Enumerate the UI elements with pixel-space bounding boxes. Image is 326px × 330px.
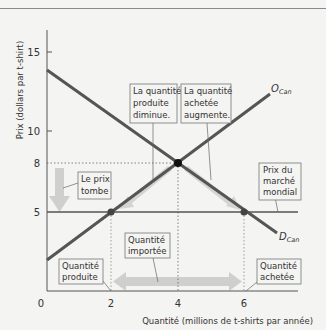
callout-price-falls: Le prix tombe xyxy=(78,172,111,199)
y-axis-title: Prix (dollars par t-shirt) xyxy=(15,41,25,140)
callout-produced: Quantité produite xyxy=(59,259,103,284)
svg-text:tombe: tombe xyxy=(81,186,108,196)
x-tick-4: 4 xyxy=(175,298,181,309)
imported-quantity-arrow xyxy=(113,272,242,291)
svg-text:mondial: mondial xyxy=(263,187,297,197)
x-tick-2: 2 xyxy=(108,298,114,309)
svg-text:Quantité: Quantité xyxy=(260,261,297,271)
svg-text:Quantité: Quantité xyxy=(62,261,99,271)
y-tick-15: 15 xyxy=(27,47,40,58)
supply-label: OCan xyxy=(271,83,292,96)
equilibrium-point xyxy=(174,159,182,167)
svg-text:La quantité: La quantité xyxy=(133,86,181,96)
y-tick-10: 10 xyxy=(27,126,40,137)
svg-text:importée: importée xyxy=(128,246,167,256)
bought-point xyxy=(241,209,248,216)
y-tick-8: 8 xyxy=(34,158,40,169)
svg-text:Quantité: Quantité xyxy=(128,235,165,245)
callout-produced-decreases: La quantité produite diminue. xyxy=(130,84,181,123)
x-tick-6: 6 xyxy=(241,298,247,309)
svg-text:achetée: achetée xyxy=(260,272,294,282)
x-tick-0: 0 xyxy=(38,298,44,309)
leader-price-falls xyxy=(63,183,78,188)
leader-bought-increases xyxy=(207,123,211,180)
leader-produced xyxy=(103,281,111,291)
callout-bought: Quantité achetée xyxy=(257,259,301,284)
leader-bought xyxy=(246,282,257,291)
chart-frame: 15 10 8 5 0 2 4 6 Quantité (millions de … xyxy=(0,0,326,330)
callout-imported: Quantité importée xyxy=(125,233,170,258)
svg-text:diminue.: diminue. xyxy=(133,110,170,120)
chart-canvas: 15 10 8 5 0 2 4 6 Quantité (millions de … xyxy=(0,0,326,330)
callout-world-price: Prix du marché mondial xyxy=(259,163,301,200)
produced-point xyxy=(108,209,115,216)
svg-text:La quantité: La quantité xyxy=(184,86,232,96)
svg-text:Prix du: Prix du xyxy=(263,165,292,175)
svg-text:augmente.: augmente. xyxy=(184,110,230,120)
svg-text:Le prix: Le prix xyxy=(81,174,110,184)
y-tick-5: 5 xyxy=(34,207,40,218)
svg-text:achetée: achetée xyxy=(184,98,218,108)
demand-label: DCan xyxy=(279,231,299,244)
svg-text:produite: produite xyxy=(62,272,98,282)
x-axis-title: Quantité (millions de t-shirts par année… xyxy=(142,316,313,326)
svg-text:marché: marché xyxy=(263,176,295,186)
price-falls-arrow xyxy=(49,168,70,212)
svg-text:produite: produite xyxy=(133,98,169,108)
callout-bought-increases: La quantité achetée augmente. xyxy=(181,84,232,123)
